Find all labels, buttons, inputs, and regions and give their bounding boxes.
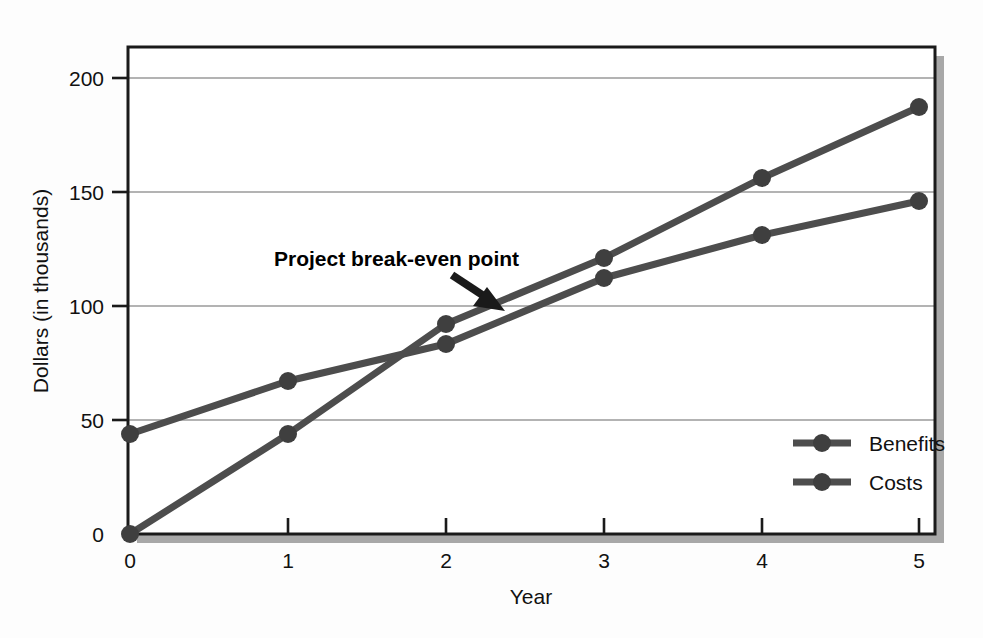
y-axis-ticks [112, 78, 128, 420]
benefits-point-y4 [753, 226, 771, 244]
y-axis-title: Dollars (in thousands) [29, 189, 52, 393]
x-axis-title: Year [510, 585, 552, 608]
benefits-point-y1 [279, 372, 297, 390]
benefits-point-y3 [595, 269, 613, 287]
y-tick-label-0: 0 [92, 523, 104, 546]
x-tick-label-4: 4 [756, 549, 768, 572]
costs-point-y4 [753, 169, 771, 187]
y-tick-label-100: 100 [69, 295, 104, 318]
legend-label-benefits: Benefits [869, 432, 945, 455]
benefits-point-y2 [437, 335, 455, 353]
x-tick-label-0: 0 [124, 549, 136, 572]
costs-point-y5 [910, 98, 928, 116]
benefits-point-y0 [121, 425, 139, 443]
legend-label-costs: Costs [869, 471, 923, 494]
x-tick-label-3: 3 [598, 549, 610, 572]
x-tick-label-2: 2 [440, 549, 452, 572]
y-tick-label-200: 200 [69, 67, 104, 90]
x-tick-label-1: 1 [282, 549, 294, 572]
y-tick-label-50: 50 [81, 409, 104, 432]
x-tick-label-5: 5 [913, 549, 925, 572]
costs-point-y1 [279, 425, 297, 443]
benefits-point-y5 [910, 192, 928, 210]
chart-figure: 200 150 100 50 0 0 1 2 3 4 5 Year Dollar… [0, 0, 983, 638]
break-even-line-chart: 200 150 100 50 0 0 1 2 3 4 5 Year Dollar… [0, 0, 983, 638]
break-even-annotation-label: Project break-even point [274, 247, 519, 270]
costs-point-y2 [437, 315, 455, 333]
y-tick-label-150: 150 [69, 181, 104, 204]
legend-marker-benefits [813, 434, 831, 452]
legend-marker-costs [813, 473, 831, 491]
costs-point-y0 [121, 525, 139, 543]
costs-point-y3 [595, 249, 613, 267]
